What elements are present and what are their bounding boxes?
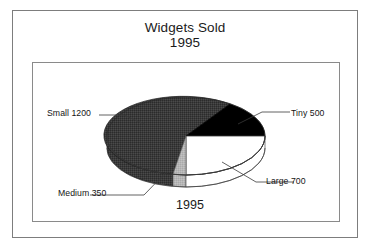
chart-title: Widgets Sold 1995 (12, 20, 358, 50)
label-medium: Medium 350 (58, 188, 106, 198)
label-tiny: Tiny 500 (291, 108, 324, 118)
category-axis-label: 1995 (150, 198, 230, 212)
chart-title-line1: Widgets Sold (12, 20, 358, 35)
pie-slice-large (186, 136, 265, 175)
pie-slice-medium-wall (173, 174, 186, 187)
chart-title-line2: 1995 (12, 35, 358, 50)
label-small: Small 1200 (47, 108, 91, 118)
chart-image: Widgets Sold 1995 (0, 0, 371, 248)
label-large: Large 700 (266, 176, 306, 186)
